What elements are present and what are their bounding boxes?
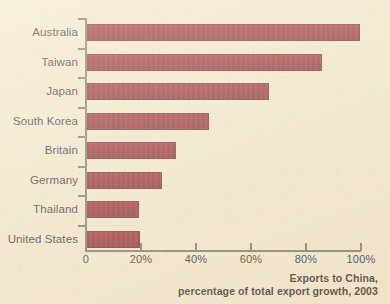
y-tick: [78, 166, 85, 168]
x-tick-label: 0: [83, 253, 89, 265]
category-label-britain: Britain: [45, 144, 78, 157]
category-label-thailand: Thailand: [33, 203, 78, 216]
bar-south-korea: [85, 113, 209, 130]
y-tick: [78, 195, 85, 197]
y-axis-line: [85, 18, 87, 251]
x-tick: [195, 243, 197, 251]
x-tick: [250, 243, 252, 251]
bar-taiwan: [85, 54, 322, 71]
caption-line-2: percentage of total export growth, 2003: [178, 285, 378, 298]
x-tick-label: 20%: [130, 253, 153, 265]
y-tick: [78, 225, 85, 227]
x-axis-line: [85, 250, 361, 252]
category-label-united-states: United States: [8, 233, 78, 246]
category-label-australia: Australia: [32, 26, 78, 39]
x-tick-label: 60%: [240, 253, 263, 265]
y-tick: [78, 18, 85, 20]
y-tick: [78, 107, 85, 109]
bar-thailand: [85, 201, 139, 218]
category-label-south-korea: South Korea: [13, 115, 78, 128]
x-tick: [140, 243, 142, 251]
x-tick-label: 40%: [185, 253, 208, 265]
chart-caption: Exports to China, percentage of total ex…: [178, 272, 378, 298]
bar-chart-figure: AustraliaTaiwanJapanSouth KoreaBritainGe…: [0, 0, 390, 304]
x-tick: [85, 243, 87, 251]
x-tick: [305, 243, 307, 251]
y-tick: [78, 136, 85, 138]
bar-germany: [85, 172, 162, 189]
bar-united-states: [85, 231, 140, 248]
bar-britain: [85, 142, 176, 159]
category-label-japan: Japan: [46, 85, 78, 98]
x-tick-label: 80%: [295, 253, 318, 265]
y-tick: [78, 77, 85, 79]
bar-japan: [85, 83, 269, 100]
bar-australia: [85, 24, 360, 41]
category-label-taiwan: Taiwan: [42, 56, 78, 69]
x-tick-label: 100%: [347, 253, 376, 265]
category-label-germany: Germany: [30, 174, 78, 187]
x-tick: [360, 243, 362, 251]
y-tick: [78, 48, 85, 50]
caption-line-1: Exports to China,: [178, 272, 378, 285]
